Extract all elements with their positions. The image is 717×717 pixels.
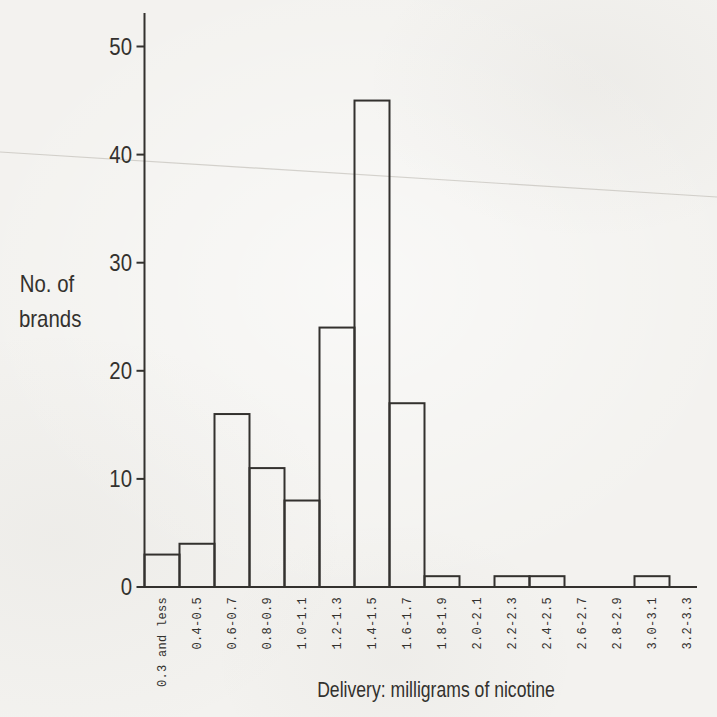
histogram-bar [530,576,565,587]
x-tick-label: 1.8-1.9 [435,597,451,650]
histogram-bar [250,468,285,587]
histogram-bar [495,576,530,587]
y-tick-label-20: 20 [91,358,132,384]
x-axis-title: Delivery: milligrams of nicotine [315,677,557,703]
x-tick-label: 2.6-2.7 [575,597,591,650]
histogram-bar [355,101,390,587]
y-tick-label-50: 50 [91,34,132,60]
x-tick-label: 1.6-1.7 [400,597,416,650]
histogram-bar [180,544,215,587]
x-tick-label: 2.0-2.1 [470,597,486,650]
histogram-bar [145,555,180,587]
y-axis-title-line2: brands [19,301,75,336]
histogram-bar [320,328,355,587]
x-tick-label: 2.2-2.3 [505,597,521,650]
x-tick-label: 2.8-2.9 [610,597,626,650]
x-tick-label: 0.8-0.9 [260,597,276,650]
histogram-bar [635,576,670,587]
x-tick-label: 1.0-1.1 [295,597,311,650]
histogram-bar [390,403,425,587]
x-tick-label: 1.2-1.3 [330,597,346,650]
x-tick-label: 3.0-3.1 [645,597,661,650]
x-tick-label: 3.2-3.3 [680,597,696,650]
x-tick-label: 2.4-2.5 [540,597,556,650]
y-axis-title: No. of brands [19,266,75,336]
x-tick-label: 0.6-0.7 [225,597,241,650]
y-tick-label-10: 10 [91,466,132,492]
y-axis-title-line1: No. of [19,266,75,301]
y-tick-label-0: 0 [91,574,132,600]
x-tick-label: 0.4-0.5 [190,597,206,650]
scanned-document-page: No. of brands Delivery: milligrams of ni… [0,0,717,717]
y-tick-label-40: 40 [91,142,132,168]
histogram-bar [285,501,320,587]
histogram-bar [425,576,460,587]
histogram-bar [215,414,250,587]
x-tick-label: 0.3 and less [155,597,171,687]
x-tick-label: 1.4-1.5 [365,597,381,650]
y-tick-label-30: 30 [91,250,132,276]
